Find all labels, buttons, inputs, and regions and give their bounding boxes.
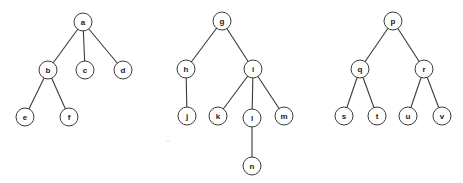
nodes-layer: abcdefghijklmnpqrstuv: [16, 12, 451, 175]
node-label: i: [252, 65, 254, 74]
scan-speck: [167, 140, 169, 142]
node-label: m: [280, 112, 287, 121]
node-label: a: [81, 18, 86, 27]
edges-layer: [25, 21, 442, 166]
node-label: p: [391, 17, 396, 26]
node-b: b: [39, 61, 57, 79]
node-label: d: [121, 66, 126, 75]
node-label: f: [68, 113, 71, 122]
node-f: f: [60, 108, 78, 126]
node-h: h: [177, 60, 195, 78]
node-label: h: [184, 65, 189, 74]
node-n: n: [243, 157, 261, 175]
node-j: j: [178, 107, 196, 125]
node-label: j: [185, 112, 188, 121]
node-v: v: [433, 107, 451, 125]
node-r: r: [415, 60, 433, 78]
node-g: g: [213, 12, 231, 30]
node-u: u: [399, 107, 417, 125]
tree-forest-diagram: abcdefghijklmnpqrstuv: [0, 0, 463, 183]
node-k: k: [209, 107, 227, 125]
node-label: n: [250, 162, 255, 171]
node-s: s: [335, 107, 353, 125]
node-label: v: [440, 112, 445, 121]
node-t: t: [368, 107, 386, 125]
node-label: l: [251, 114, 253, 123]
node-l: l: [243, 109, 261, 127]
node-label: u: [406, 112, 411, 121]
tree-g: [186, 21, 284, 166]
node-d: d: [114, 61, 132, 79]
node-label: r: [422, 65, 425, 74]
node-q: q: [351, 60, 369, 78]
node-label: e: [23, 113, 28, 122]
node-label: b: [46, 66, 51, 75]
node-a: a: [74, 13, 92, 31]
node-m: m: [275, 107, 293, 125]
node-e: e: [16, 108, 34, 126]
node-i: i: [244, 60, 262, 78]
node-label: t: [376, 112, 379, 121]
node-label: k: [216, 112, 221, 121]
node-c: c: [76, 61, 94, 79]
node-label: q: [358, 65, 363, 74]
node-label: c: [83, 66, 88, 75]
node-label: g: [220, 17, 225, 26]
node-p: p: [384, 12, 402, 30]
node-label: s: [342, 112, 347, 121]
